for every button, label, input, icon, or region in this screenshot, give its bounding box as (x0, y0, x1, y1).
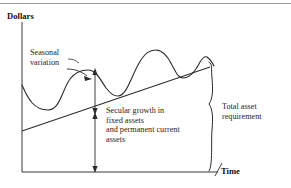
secular-growth-annotation: Secular growth in fixed assets and perma… (106, 106, 180, 144)
total-asset-brace (209, 62, 213, 171)
x-axis-label: Time (221, 166, 240, 176)
diagram-canvas (0, 0, 291, 188)
y-axis-label: Dollars (7, 11, 34, 21)
secular-measure-arrowhead-top (92, 112, 97, 119)
seasonal-pointer-arrowhead (84, 76, 92, 81)
figure-container: Dollars Time Seasonal variation Secular … (0, 0, 291, 188)
seasonal-leader-line (68, 59, 79, 63)
seasonal-variation-annotation: Seasonal variation (30, 48, 59, 67)
total-asset-requirement-annotation: Total asset requirement (222, 102, 262, 121)
